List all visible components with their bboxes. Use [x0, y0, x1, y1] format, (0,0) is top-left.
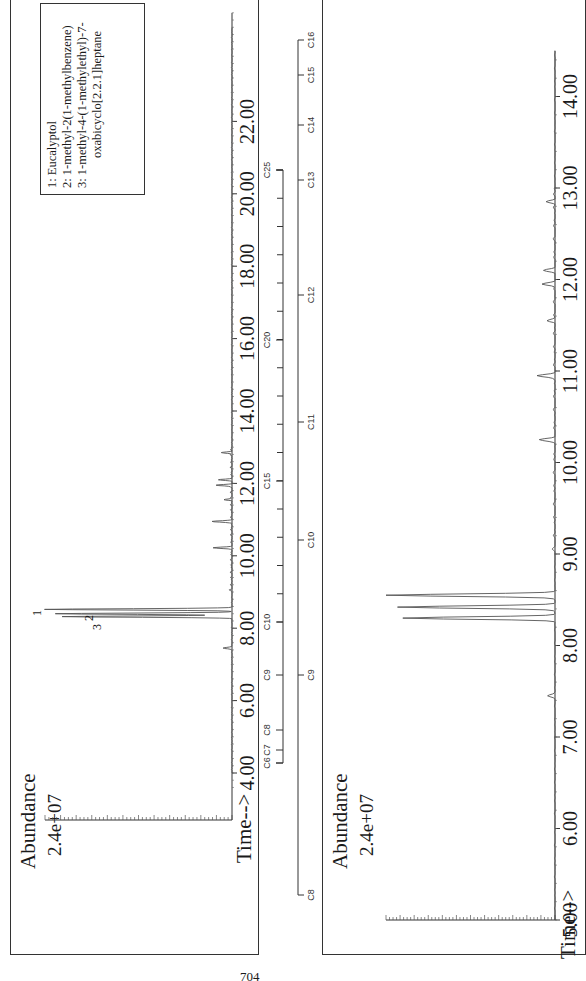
x-tick-label: 6.00	[559, 811, 582, 846]
rotated-page: Abundance 2.4e+07 Time--> 1: Eucalyptol …	[0, 0, 586, 981]
x-tick-label: 5.00	[559, 903, 582, 938]
x-tick-label: 14.00	[559, 74, 582, 119]
x-tick-label: 11.00	[559, 349, 582, 393]
page-number: 704	[240, 969, 260, 981]
x-tick-label: 7.00	[559, 720, 582, 755]
x-tick-label: 12.00	[559, 257, 582, 302]
x-tick-label: 9.00	[559, 537, 582, 572]
x-tick-label: 8.00	[559, 628, 582, 663]
x-tick-label: 10.00	[559, 440, 582, 485]
x-tick-label: 13.00	[559, 166, 582, 211]
chromatogram-2-plot	[0, 0, 586, 981]
